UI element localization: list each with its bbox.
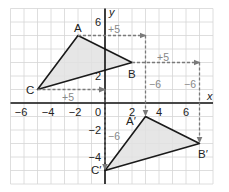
translation-label-a-horizontal: +5 <box>108 23 120 35</box>
vertex-label-a: A <box>74 22 82 34</box>
x-tick-label: −2 <box>69 106 82 118</box>
vertex-label-c-prime: C′ <box>91 164 101 176</box>
translation-label-c-horizontal: +5 <box>62 91 74 103</box>
x-tick-label: −6 <box>15 106 28 118</box>
coordinate-plane-figure: −6 −4 −2 0 2 4 6 6 2 −2 −4 x y A B C A′ … <box>0 0 229 192</box>
y-axis-label: y <box>108 6 116 18</box>
x-tick-label: −4 <box>42 106 55 118</box>
x-tick-label: 6 <box>183 106 189 118</box>
y-tick-label: −4 <box>88 151 101 163</box>
x-axis-label: x <box>206 90 213 102</box>
coordinate-plane-svg: −6 −4 −2 0 2 4 6 6 2 −2 −4 x y A B C A′ … <box>0 0 229 192</box>
translation-label-b-vertical: −6 <box>184 78 196 90</box>
translation-label-a-vertical: −6 <box>149 78 161 90</box>
vertex-label-b: B <box>128 68 136 80</box>
vertex-label-b-prime: B′ <box>198 148 208 160</box>
y-tick-label: −2 <box>88 124 101 136</box>
translation-label-c-vertical: −6 <box>108 130 120 142</box>
vertex-label-c: C <box>26 84 34 96</box>
x-tick-label: 0 <box>95 106 101 118</box>
y-tick-label: 6 <box>95 16 101 28</box>
vertex-label-a-prime: A′ <box>126 115 136 127</box>
y-tick-label: 2 <box>95 70 101 82</box>
x-tick-label: 4 <box>156 106 162 118</box>
translation-label-b-horizontal: +5 <box>157 51 169 63</box>
